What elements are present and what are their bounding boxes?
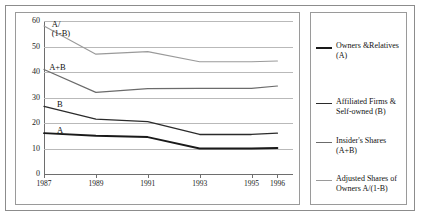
legend-label: Insider's Shares (A+B)	[336, 136, 401, 155]
legend-item[interactable]: Affiliated Firms &Self-owned (B)	[316, 97, 401, 116]
curve-label: A/(1-B)	[52, 19, 70, 38]
legend-entries: Owners &Relatives (A)Affiliated Firms &S…	[316, 19, 401, 198]
x-tick-mark	[200, 174, 201, 178]
x-tick-mark	[96, 174, 97, 178]
y-tick-label: 10	[32, 145, 40, 153]
figure-frame: 0102030405060 198719891991199319951996 A…	[5, 5, 415, 211]
x-tick-label: 1993	[192, 180, 207, 188]
gridline-0: 0	[44, 174, 293, 175]
series-line	[44, 26, 277, 62]
legend-label: Affiliated Firms &Self-owned (B)	[336, 97, 396, 116]
x-tick-label: 1987	[37, 180, 52, 188]
y-tick-label: 50	[32, 43, 40, 51]
series-line	[44, 106, 277, 134]
y-tick-label: 20	[32, 119, 40, 127]
legend-item[interactable]: Insider's Shares (A+B)	[316, 136, 401, 155]
legend-item[interactable]: Adjusted Shares ofOwners A/(1-B)	[316, 174, 401, 193]
legend-line-swatch	[316, 100, 332, 108]
chart-legend-panel: Owners &Relatives (A)Affiliated Firms &S…	[310, 12, 407, 205]
y-tick-label: 0	[36, 170, 40, 178]
x-tick-label: 1996	[270, 180, 285, 188]
series-lines	[44, 21, 293, 174]
x-tick-mark	[277, 174, 278, 178]
x-tick-mark	[148, 174, 149, 178]
legend-line-swatch	[316, 177, 332, 185]
series-line	[44, 69, 277, 92]
x-tick-mark	[44, 174, 45, 178]
x-tick-label: 1995	[244, 180, 259, 188]
x-tick-mark	[252, 174, 253, 178]
chart-plot-panel: 0102030405060 198719891991199319951996 A…	[15, 12, 300, 205]
x-tick-label: 1991	[140, 180, 155, 188]
y-tick-label: 60	[32, 17, 40, 25]
curve-label: A	[57, 126, 63, 136]
y-tick-label: 40	[32, 68, 40, 76]
x-tick-label: 1989	[88, 180, 103, 188]
legend-label: Adjusted Shares ofOwners A/(1-B)	[336, 174, 397, 193]
curve-label: A+B	[49, 63, 66, 73]
legend-item[interactable]: Owners &Relatives (A)	[316, 41, 401, 60]
legend-label: Owners &Relatives (A)	[336, 41, 401, 60]
series-line	[44, 133, 277, 148]
y-tick-label: 30	[32, 94, 40, 102]
legend-line-swatch	[316, 139, 332, 147]
legend-line-swatch	[316, 44, 332, 52]
plot-area: 0102030405060 198719891991199319951996 A…	[44, 21, 293, 174]
curve-label: B	[57, 100, 63, 110]
